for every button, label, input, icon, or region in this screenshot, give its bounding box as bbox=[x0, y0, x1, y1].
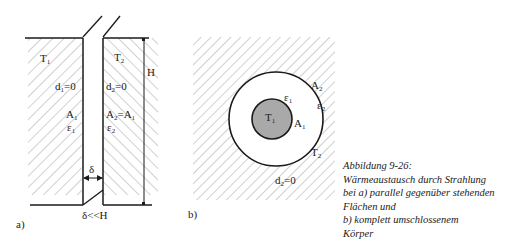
gap-label: δ bbox=[89, 163, 94, 175]
caption-line: b) komplett umschlossenem bbox=[343, 213, 495, 227]
enclosure-temperature: T2 bbox=[311, 146, 321, 162]
enclosure-thickness: d2=0 bbox=[275, 174, 296, 190]
right-plate-temperature: T2 bbox=[114, 51, 124, 67]
diagram-b-label: b) bbox=[188, 208, 197, 220]
caption-line: Abbildung 9-26: bbox=[343, 159, 495, 173]
right-plate-thickness: d2=0 bbox=[106, 80, 127, 96]
height-label: H bbox=[147, 66, 155, 78]
inner-body-temperature: T1 bbox=[265, 111, 275, 127]
figure-caption: Abbildung 9-26: Wärmeaustausch durch Str… bbox=[343, 159, 495, 240]
left-plate-emissivity: ε1 bbox=[67, 121, 75, 137]
diagram-b bbox=[193, 37, 335, 200]
caption-line: Wärmeaustausch durch Strahlung bbox=[343, 173, 495, 187]
caption-line: bei a) parallel gegenüber stehenden bbox=[343, 186, 495, 200]
diagram-a-label: a) bbox=[16, 218, 25, 230]
gap-condition: δ<<H bbox=[82, 209, 108, 221]
left-plate-temperature: T1 bbox=[40, 52, 50, 68]
enclosure-area: A2 bbox=[311, 79, 322, 95]
caption-line: Körper bbox=[343, 227, 495, 241]
left-plate-thickness: d1=0 bbox=[55, 80, 76, 96]
inner-body-area: A1 bbox=[294, 117, 305, 133]
caption-line: Flächen und bbox=[343, 200, 495, 214]
right-plate-emissivity: ε2 bbox=[107, 121, 115, 137]
diagram-a bbox=[25, 16, 158, 205]
inner-body-emissivity: ε1 bbox=[284, 91, 292, 107]
enclosure-emissivity: ε2 bbox=[317, 99, 325, 115]
